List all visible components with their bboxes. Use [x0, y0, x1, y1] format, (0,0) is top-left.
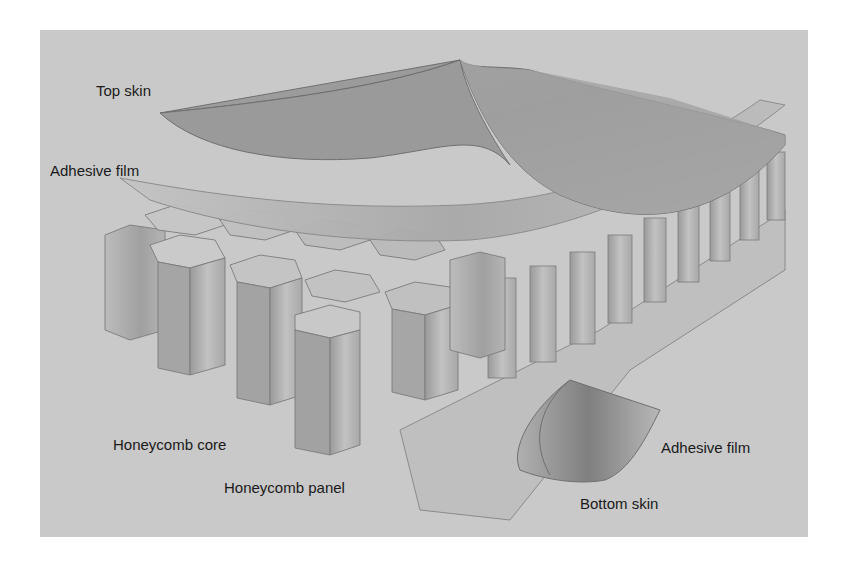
label-top-skin: Top skin: [96, 83, 151, 98]
label-honeycomb-panel: Honeycomb panel: [224, 480, 345, 495]
label-adhesive-film-top: Adhesive film: [50, 163, 139, 178]
label-bottom-skin: Bottom skin: [580, 496, 658, 511]
label-honeycomb-core: Honeycomb core: [113, 437, 226, 452]
illustration-drawing: [40, 30, 808, 537]
label-adhesive-film-bottom: Adhesive film: [661, 440, 750, 455]
honeycomb-panel-illustration: Top skin Adhesive film Honeycomb core Ho…: [40, 30, 808, 537]
